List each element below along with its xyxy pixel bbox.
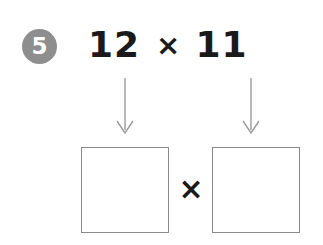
problem-statement: 12 × 11 xyxy=(88,22,248,66)
left-operand: 12 xyxy=(88,24,140,65)
multiplication-operator: × xyxy=(156,28,181,62)
right-operand: 11 xyxy=(195,24,247,65)
worksheet-page: 5 12 × 11 × xyxy=(0,0,323,245)
box-multiplication-operator: × xyxy=(170,167,212,209)
answer-box-left[interactable] xyxy=(81,147,169,233)
answer-box-right[interactable] xyxy=(212,147,300,233)
question-number-badge: 5 xyxy=(22,29,57,64)
arrow-down-icon xyxy=(112,78,138,136)
arrow-down-icon xyxy=(238,78,264,136)
